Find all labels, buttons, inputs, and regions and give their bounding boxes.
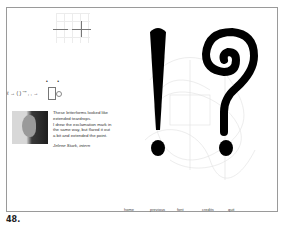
nav-home[interactable]: home (124, 207, 134, 212)
bio-line: a bit and extended the point. (53, 133, 125, 139)
dots-marker: • • (46, 78, 63, 84)
avatar (12, 111, 48, 144)
nav-font[interactable]: font (177, 207, 184, 212)
arrow-line-icon (53, 29, 68, 30)
sketch-grid (56, 13, 90, 43)
bio-signature: Jelene Stark, intern (53, 143, 125, 149)
question-mark-glyph (198, 28, 258, 162)
nav-credits[interactable]: credits (202, 207, 214, 212)
exclamation-mark-glyph (144, 26, 172, 162)
cross-vertical-icon (81, 21, 82, 37)
circle-icon (56, 91, 62, 97)
figure-number: 48. (6, 215, 20, 224)
highlight-box (48, 87, 56, 100)
formula-text: ℓ → ( ) ‘’” , , → (7, 90, 38, 96)
nav-quit[interactable]: quit (228, 207, 234, 212)
nav-previous[interactable]: previous (150, 207, 165, 212)
bio-text: These letterforms looked like extended t… (53, 110, 125, 149)
